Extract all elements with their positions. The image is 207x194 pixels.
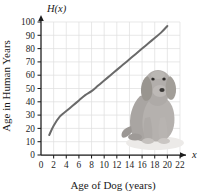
y-tick-label: 10 <box>26 137 36 147</box>
x-tick-label: 20 <box>163 160 173 170</box>
y-tick-label: 90 <box>26 31 36 41</box>
function-label: H(x) <box>46 3 67 15</box>
dog-age-chart-figure: 0102030405060708090100 02468101214161820… <box>0 0 207 194</box>
x-tick-label: 6 <box>77 160 82 170</box>
chart-svg: 0102030405060708090100 02468101214161820… <box>0 0 207 194</box>
y-tick-label: 30 <box>26 110 36 120</box>
y-tick-label: 60 <box>26 70 36 80</box>
y-axis-arrow-icon <box>38 15 44 21</box>
x-tick-label: 10 <box>100 160 110 170</box>
y-tick-label: 40 <box>26 97 36 107</box>
x-tick-label: 16 <box>137 160 147 170</box>
y-tick-label: 100 <box>21 17 35 27</box>
x-tick-label: 18 <box>150 160 160 170</box>
x-axis-arrow-icon <box>180 152 186 158</box>
y-tick-label: 20 <box>26 124 36 134</box>
y-tick-label: 50 <box>26 84 36 94</box>
y-tick-label: 70 <box>26 57 36 67</box>
x-tick-label: 8 <box>89 160 94 170</box>
x-tick-label: 22 <box>175 160 185 170</box>
x-tick-label: 0 <box>39 160 44 170</box>
x-tick-label: 4 <box>64 160 69 170</box>
y-tick-label: 80 <box>26 44 36 54</box>
x-axis-symbol-label: x <box>191 149 197 160</box>
y-axis-title: Age in Human Years <box>0 40 12 132</box>
x-axis-ticks: 0246810121416182022 <box>39 155 185 170</box>
x-tick-label: 2 <box>51 160 56 170</box>
x-axis-title: Age of Dog (years) <box>70 179 156 192</box>
dog-photograph <box>121 70 184 150</box>
x-tick-label: 12 <box>112 160 122 170</box>
y-tick-label: 0 <box>30 150 35 160</box>
y-axis-ticks: 0102030405060708090100 <box>21 17 41 160</box>
x-tick-label: 14 <box>125 160 135 170</box>
